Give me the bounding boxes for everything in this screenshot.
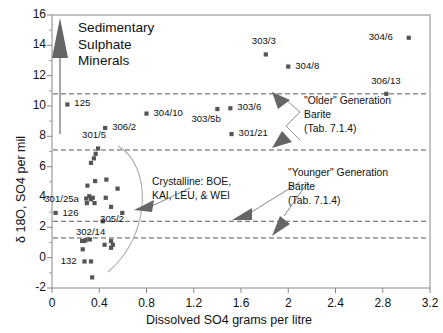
- data-point: [84, 196, 88, 200]
- crystalline-annotation-line: KAI, LEU, & WEI: [152, 189, 231, 203]
- point-label: 125: [74, 97, 90, 108]
- data-point: [92, 156, 96, 160]
- data-point: [109, 205, 113, 209]
- chart-canvas: -2024681012141600.40.81.21.622.42.83.2δ …: [0, 0, 443, 333]
- data-point: [286, 64, 290, 68]
- data-point: [65, 102, 69, 106]
- point-label: 303/3: [252, 35, 276, 46]
- sedimentary-annotation-line: Sedimentary: [78, 20, 154, 37]
- point-label: 126: [63, 207, 79, 218]
- data-point: [89, 161, 93, 165]
- older-callout-arrow-bottom: [272, 131, 292, 148]
- crystalline-annotation: Crystalline: BOE,KAI, LEU, & WEI: [152, 175, 231, 203]
- point-label: 301/21: [239, 127, 268, 138]
- data-point: [104, 196, 108, 200]
- younger-barite-annotation-line: Barite: [288, 180, 388, 194]
- crystalline-callout-arrow: [134, 200, 154, 212]
- data-point: [407, 36, 411, 40]
- y-tick-label: 14: [18, 37, 46, 51]
- data-point: [53, 211, 57, 215]
- older-callout-arrow-top: [272, 92, 290, 109]
- older-callout-line: [284, 98, 300, 140]
- point-label: 304/6: [369, 31, 393, 42]
- younger-barite-annotation: "Younger" GenerationBarite(Tab. 7.1.4): [288, 166, 388, 208]
- x-tick-label: 1.2: [174, 296, 214, 310]
- data-point: [85, 201, 89, 205]
- data-point: [104, 177, 108, 181]
- x-tick-label: 2.4: [316, 296, 356, 310]
- sedimentary-arrow-head: [52, 18, 68, 58]
- data-point: [264, 52, 268, 56]
- point-label: 303/5b: [191, 113, 220, 124]
- data-point: [144, 111, 148, 115]
- older-barite-annotation-line: Barite: [304, 108, 391, 122]
- point-label: 306/13: [371, 75, 400, 86]
- younger-callout-arrow-1: [232, 208, 252, 220]
- point-label: 305/2: [100, 213, 124, 224]
- data-point: [81, 247, 85, 251]
- data-point: [94, 152, 98, 156]
- y-tick-label: -2: [18, 280, 46, 294]
- point-label: 306/2: [112, 121, 136, 132]
- data-point: [215, 107, 219, 111]
- older-barite-annotation: "Older" GenerationBarite(Tab. 7.1.4): [304, 94, 391, 136]
- younger-barite-annotation-line: (Tab. 7.1.4): [288, 194, 388, 208]
- y-tick-label: 0: [18, 250, 46, 264]
- data-point: [96, 146, 100, 150]
- data-point: [85, 184, 89, 188]
- point-label: 303/6: [237, 101, 261, 112]
- point-label: 301/5: [82, 129, 106, 140]
- point-label: 302/14: [76, 226, 105, 237]
- data-point: [229, 132, 233, 136]
- younger-callout-arrow-2: [272, 216, 290, 236]
- y-tick-label: 12: [18, 68, 46, 82]
- data-point: [88, 237, 92, 241]
- data-point: [93, 179, 97, 183]
- data-point: [102, 243, 106, 247]
- x-tick-label: 0.4: [79, 296, 119, 310]
- point-label: 132: [61, 255, 77, 266]
- data-point: [82, 259, 86, 263]
- data-point: [91, 196, 95, 200]
- data-point: [90, 275, 94, 279]
- data-point: [109, 239, 113, 243]
- data-point: [115, 187, 119, 191]
- data-point: [82, 239, 86, 243]
- point-label: 301/25a: [44, 193, 79, 204]
- data-point: [92, 201, 96, 205]
- y-tick-label: 16: [18, 7, 46, 21]
- y-tick-label: 10: [18, 98, 46, 112]
- x-tick-label: 0: [32, 296, 72, 310]
- older-barite-annotation-line: (Tab. 7.1.4): [304, 122, 391, 136]
- x-tick-label: 0.8: [127, 296, 167, 310]
- younger-barite-annotation-line: "Younger" Generation: [288, 166, 388, 180]
- data-point: [228, 106, 232, 110]
- x-tick-label: 2: [268, 296, 308, 310]
- sedimentary-annotation: SedimentarySulphateMinerals: [78, 20, 154, 70]
- x-tick-label: 1.6: [221, 296, 261, 310]
- point-label: 304/10: [154, 107, 183, 118]
- point-label: 304/8: [295, 60, 319, 71]
- x-tick-label: 3.2: [410, 296, 443, 310]
- sedimentary-annotation-line: Minerals: [78, 53, 154, 70]
- data-point: [109, 246, 113, 250]
- data-point: [89, 259, 93, 263]
- x-axis-title: Dissolved SO4 grams per litre: [146, 313, 312, 327]
- y-axis-title: δ 18O, SO4 per mil: [14, 136, 28, 243]
- x-tick-label: 2.8: [363, 296, 403, 310]
- sedimentary-annotation-line: Sulphate: [78, 37, 154, 54]
- older-barite-annotation-line: "Older" Generation: [304, 94, 391, 108]
- crystalline-annotation-line: Crystalline: BOE,: [152, 175, 231, 189]
